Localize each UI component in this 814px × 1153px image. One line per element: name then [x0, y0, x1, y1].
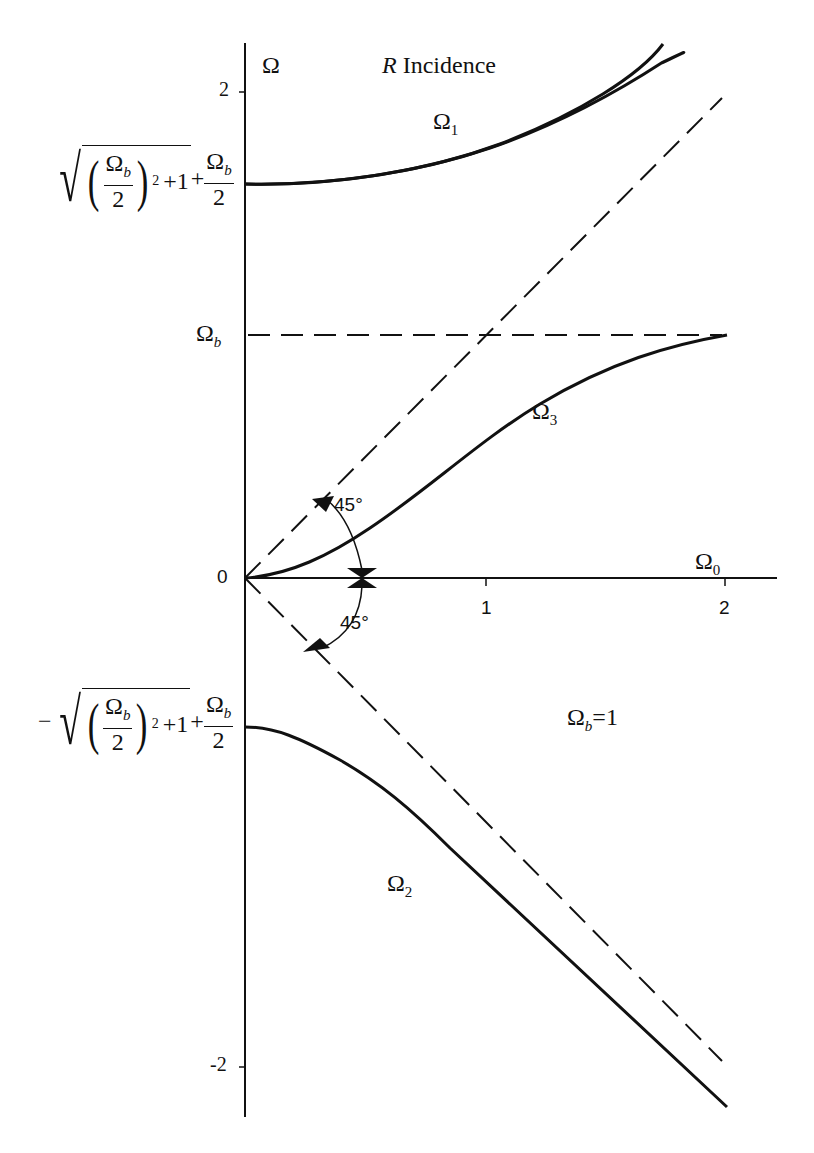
- y-axis-label: Ω: [262, 52, 280, 79]
- y-tick-label-2: 2: [219, 78, 229, 101]
- angle-label-lower: 45°: [340, 612, 369, 634]
- label-omega-3: Ω3: [532, 398, 557, 429]
- x-tick-label-1: 1: [481, 597, 492, 619]
- curve-omega-2: [245, 727, 727, 1107]
- chart-title: R Incidence: [382, 52, 496, 79]
- asymptote-positive: [245, 98, 722, 578]
- x-axis-label: Ω0: [695, 548, 720, 579]
- label-omega-1: Ω1: [433, 108, 458, 139]
- y-tick-label-neg2: -2: [210, 1053, 227, 1076]
- angle-label-upper: 45°: [334, 494, 363, 516]
- y-label-omega-b: Ωb: [196, 320, 221, 351]
- asymptote-negative: [245, 578, 722, 1061]
- bowtie-upper-icon: [347, 568, 377, 578]
- parameter-label: Ωb=1: [567, 704, 618, 735]
- title-r: R: [382, 52, 397, 78]
- y-label-lower-formula: − √ ( Ωb2 ) 2 +1 + Ωb2: [38, 688, 233, 755]
- bowtie-lower-icon: [347, 578, 377, 588]
- y-label-upper-formula: √ ( Ωb2 ) 2 +1 + Ωb2: [52, 145, 234, 212]
- curve-omega-3: [245, 335, 727, 578]
- label-omega-2: Ω2: [387, 870, 412, 901]
- x-tick-label-2: 2: [719, 597, 730, 619]
- title-incidence: Incidence: [397, 52, 496, 78]
- y-tick-label-0: 0: [217, 566, 228, 588]
